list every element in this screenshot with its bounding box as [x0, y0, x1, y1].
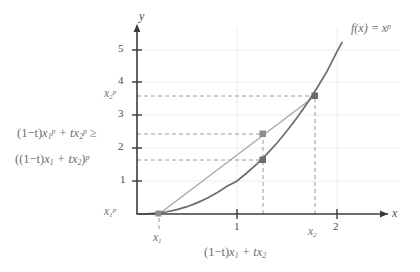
label-x2-to-p-sup: p	[113, 88, 117, 96]
axis-ticks	[132, 50, 337, 219]
label-x1: x1	[153, 232, 162, 245]
function-curve	[137, 42, 342, 214]
label-x1-to-p-sup: p	[113, 206, 117, 214]
label-x1-to-p: x1p	[104, 206, 116, 219]
curve-val-sup: p	[85, 153, 89, 162]
label-function-sup: p	[387, 22, 391, 31]
label-x1-sub: 1	[158, 237, 162, 245]
curve-val-open: ((1−t)	[15, 152, 44, 166]
y-tick-label-5: 5	[118, 43, 124, 54]
curve-val-plus: + t	[54, 152, 72, 166]
point-right-endpoint	[312, 93, 319, 100]
x-tick-label-1: 1	[234, 221, 240, 232]
label-x2-sub: 2	[313, 231, 317, 239]
point-chord-value	[260, 131, 267, 138]
chord-ineq-plus: + t	[55, 126, 73, 140]
y-axis-label: y	[139, 10, 144, 22]
label-chord-inequality: (1−t)x1p + tx2p ≥	[17, 127, 97, 141]
y-tick-label-4: 4	[118, 75, 124, 86]
label-x2-to-p: x2p	[104, 88, 116, 101]
x-axis-arrowhead	[380, 211, 388, 218]
x-axis-label: x	[392, 207, 397, 219]
y-tick-label-2: 2	[118, 141, 124, 152]
y-tick-label-1: 1	[120, 174, 126, 185]
y-axis-arrowhead	[134, 24, 141, 32]
mid-plus: + t	[239, 245, 257, 259]
label-midpoint: (1−t)x1 + tx2	[204, 246, 266, 260]
label-curve-value: ((1−t)x1 + tx2)p	[15, 153, 89, 167]
convexity-figure: y x 5 4 3 2 1 1 2 x2p x1p (1−t)x1p + tx2…	[0, 0, 420, 272]
label-x2: x2	[308, 226, 317, 239]
point-curve-value	[260, 157, 267, 164]
label-function: f(x) = xp	[351, 22, 391, 34]
point-left-endpoint	[156, 211, 162, 217]
grid-lines	[137, 28, 400, 214]
mid-open: (1−t)	[204, 245, 229, 259]
label-function-text: f(x) = x	[351, 21, 387, 35]
mid-x2-sub: 2	[262, 251, 266, 260]
x-tick-label-2: 2	[333, 221, 339, 232]
chord-ineq-open: (1−t)	[17, 126, 42, 140]
y-tick-label-3: 3	[118, 108, 124, 119]
chord-ineq-sign: ≥	[87, 126, 97, 140]
